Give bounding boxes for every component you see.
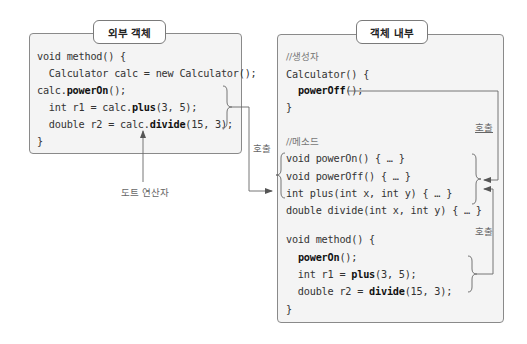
external-call-label: 호출: [253, 141, 271, 155]
methods-left-brace-icon: [276, 153, 285, 198]
constructor-call-label: 호출: [475, 120, 493, 134]
dot-operator-label: 도트 연산자: [121, 185, 169, 199]
constructor-call-connector: [347, 91, 498, 180]
methods-right-brace-icon: [472, 154, 481, 204]
method-body-brace-icon: [468, 256, 477, 292]
internal-call-label: 호출: [475, 224, 493, 238]
connector-lines: [0, 0, 527, 344]
outer-call-brace-icon: [222, 86, 232, 128]
